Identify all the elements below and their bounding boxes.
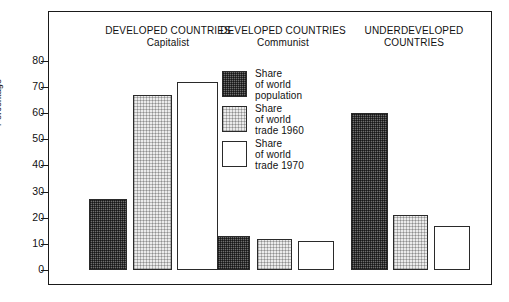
legend-swatch-light [222,106,247,132]
legend-swatch-white [222,141,247,167]
bar-g3-s1 [351,113,388,270]
bar-g2-s1 [213,236,250,270]
bar-g1-s2 [133,95,172,270]
bar-g2-s3 [298,241,334,270]
legend-label: Share of world trade 1970 [255,138,304,172]
legend-item-1: Share of world population [222,70,342,105]
legend-item-2: Share of world trade 1960 [222,105,342,140]
bar-g3-s2 [393,215,428,270]
bar-chart: Percentage 01020304050607080 DEVELOPED C… [0,0,509,302]
bar-g1-s1 [89,199,127,270]
legend-item-3: Share of world trade 1970 [222,140,342,175]
bar-g3-s3 [434,226,470,270]
bar-g1-s3 [177,82,218,270]
legend-swatch-dark [222,71,247,97]
chart-legend: Share of world populationShare of world … [222,70,342,175]
legend-label: Share of world trade 1960 [255,103,304,137]
legend-label: Share of world population [255,68,302,102]
bar-g2-s2 [257,239,292,270]
